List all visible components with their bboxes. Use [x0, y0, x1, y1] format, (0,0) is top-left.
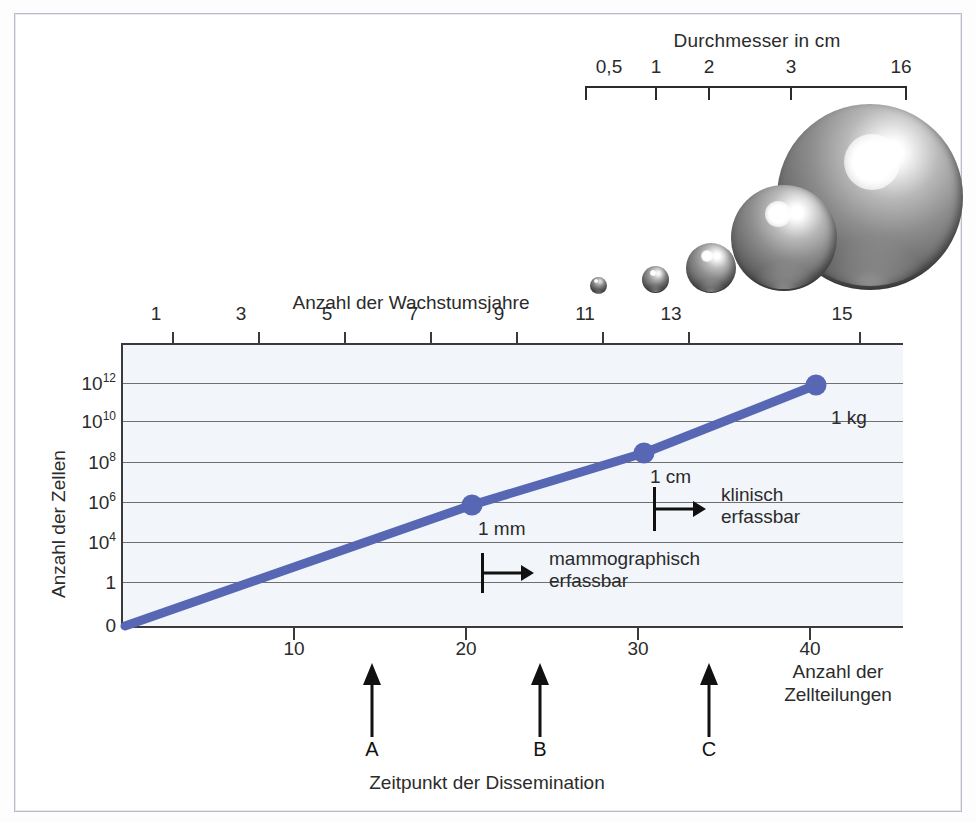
sphere-highlight — [701, 250, 713, 262]
growth-years-tick-11 — [602, 332, 604, 344]
mammography-detection-label: mammographisch erfassbar — [549, 548, 700, 592]
diameter-tick-1 — [655, 86, 657, 100]
growth-years-tick-3 — [258, 332, 260, 344]
tumor-sphere-2cm — [686, 243, 736, 293]
dissemination-label-c: C — [702, 738, 716, 762]
y-tick-label-0: 0 — [66, 615, 116, 637]
y-tick-exponent: 10 — [103, 409, 116, 423]
arrow-head-icon — [521, 565, 534, 581]
figure-root: Durchmesser in cm 0,5 1 2 3 16 Anzahl de… — [0, 0, 976, 822]
y-tick-exponent: 8 — [109, 450, 116, 464]
data-point-1mm — [462, 495, 483, 516]
diameter-tick-label-4: 16 — [890, 56, 911, 78]
tumor-sphere-05cm — [590, 277, 607, 294]
y-tick-mantissa: 10 — [88, 492, 109, 513]
klinisch-label-line1: klinisch — [721, 484, 800, 506]
growth-years-tick-1 — [172, 332, 174, 344]
sphere-highlight — [844, 134, 900, 190]
diameter-tick-label-3: 3 — [786, 56, 797, 78]
x-tick-label-30: 30 — [627, 638, 648, 660]
dissemination-arrow-c — [700, 663, 718, 737]
growth-years-tick-label-1: 1 — [151, 303, 162, 325]
y-tick-exponent: 4 — [109, 530, 116, 544]
growth-years-tick-7 — [430, 332, 432, 344]
annotation-1mm-label: 1 mm — [478, 518, 526, 540]
x-axis-title-line1: Anzahl der — [784, 661, 892, 684]
arrow-shaft — [708, 673, 711, 737]
growth-years-tick-label-9: 9 — [494, 303, 505, 325]
sphere-highlight — [594, 279, 598, 283]
arrow-head-icon — [693, 501, 706, 517]
bracket-shaft — [655, 508, 695, 511]
x-axis-title: Anzahl der Zellteilungen — [784, 661, 892, 707]
diameter-tick-start — [585, 86, 587, 100]
y-tick-label-1e10: 1010 — [66, 411, 116, 433]
growth-years-tick-15 — [859, 332, 861, 344]
growth-years-tick-5 — [344, 332, 346, 344]
diameter-tick-3 — [790, 86, 792, 100]
y-tick-mantissa: 10 — [88, 452, 109, 473]
clinical-detection-label: klinisch erfassbar — [721, 484, 800, 528]
y-tick-label-1e8: 108 — [66, 452, 116, 474]
x-tick-label-40: 40 — [799, 638, 820, 660]
growth-years-tick-label-3: 3 — [236, 303, 247, 325]
diameter-tick-label-0: 0,5 — [596, 56, 622, 78]
figure-caption: Zeitpunkt der Dissemination — [369, 772, 605, 794]
tumor-sphere-1cm — [642, 266, 669, 293]
dissemination-label-a: A — [365, 738, 378, 762]
y-tick-mantissa: 10 — [82, 373, 103, 394]
mammography-detection-arrow — [481, 553, 541, 593]
dissemination-arrow-a — [363, 663, 381, 737]
data-point-1kg — [806, 375, 827, 396]
y-tick-exponent: 12 — [103, 371, 116, 385]
y-tick-label-1: 1 — [66, 572, 116, 594]
x-tick-label-20: 20 — [455, 638, 476, 660]
y-tick-mantissa: 1 — [105, 572, 116, 593]
diameter-tick-label-1: 1 — [651, 56, 662, 78]
growth-years-tick-label-11: 11 — [575, 303, 595, 325]
klinisch-label-line2: erfassbar — [721, 506, 800, 528]
diameter-tick-4 — [905, 86, 907, 100]
y-tick-label-1e4: 104 — [66, 532, 116, 554]
diameter-scale-title: Durchmesser in cm — [673, 30, 840, 52]
y-tick-exponent: 6 — [109, 490, 116, 504]
diameter-tick-2 — [708, 86, 710, 100]
growth-years-tick-label-5: 5 — [322, 303, 333, 325]
arrow-shaft — [371, 673, 374, 737]
growth-years-tick-label-7: 7 — [408, 303, 419, 325]
annotation-1kg-label: 1 kg — [831, 407, 867, 429]
y-tick-mantissa: 0 — [105, 615, 116, 636]
y-tick-mantissa: 10 — [88, 532, 109, 553]
growth-years-tick-9 — [516, 332, 518, 344]
annotation-1cm-label: 1 cm — [650, 466, 691, 488]
diameter-axis-line — [585, 86, 907, 88]
y-tick-mantissa: 10 — [82, 411, 103, 432]
mammo-label-line2: erfassbar — [549, 570, 700, 592]
bracket-shaft — [483, 572, 523, 575]
data-point-1cm — [634, 443, 655, 464]
dissemination-arrow-b — [531, 663, 549, 737]
growth-years-tick-13 — [688, 332, 690, 344]
plot-area: 1 mm 1 cm 1 kg mammographisch erfassbar … — [121, 345, 903, 628]
y-tick-label-1e6: 106 — [66, 492, 116, 514]
x-axis-title-line2: Zellteilungen — [784, 684, 892, 707]
sphere-highlight — [765, 201, 792, 228]
tumor-sphere-3cm — [731, 185, 837, 291]
mammo-label-line1: mammographisch — [549, 548, 700, 570]
dissemination-label-b: B — [533, 738, 546, 762]
x-tick-label-10: 10 — [283, 638, 304, 660]
y-tick-label-1e12: 1012 — [66, 373, 116, 395]
growth-years-tick-label-15: 15 — [831, 303, 852, 325]
growth-years-tick-label-13: 13 — [660, 303, 681, 325]
diameter-tick-label-2: 2 — [704, 56, 715, 78]
arrow-shaft — [539, 673, 542, 737]
sphere-highlight — [650, 270, 656, 276]
clinical-detection-arrow — [653, 487, 713, 531]
